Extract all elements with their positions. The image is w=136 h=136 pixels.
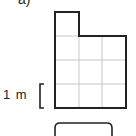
grid-lines bbox=[55, 36, 126, 108]
scale-bracket bbox=[40, 84, 44, 108]
area-diagram bbox=[0, 0, 136, 136]
answer-box bbox=[55, 123, 112, 136]
